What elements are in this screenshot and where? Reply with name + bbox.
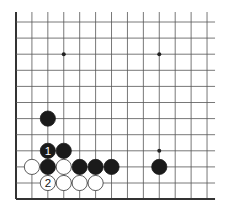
black-stone-icon: [40, 111, 55, 126]
black-stone-icon: [56, 143, 71, 158]
white-stone[interactable]: [56, 175, 71, 190]
white-stone-move-2[interactable]: 2: [40, 175, 55, 190]
black-stone-move-1[interactable]: 1: [40, 143, 55, 158]
white-stone-icon: [24, 159, 39, 174]
black-stone[interactable]: [152, 159, 167, 174]
star-point-icon: [157, 52, 161, 56]
black-stone[interactable]: [104, 159, 119, 174]
white-stone-icon: [88, 175, 103, 190]
white-stone-icon: [72, 175, 87, 190]
black-stone-icon: [152, 159, 167, 174]
black-stone[interactable]: [40, 111, 55, 126]
black-stone[interactable]: [88, 159, 103, 174]
black-stone-icon: [40, 159, 55, 174]
black-stone-icon: [88, 159, 103, 174]
white-stone[interactable]: [24, 159, 39, 174]
white-stone[interactable]: [88, 175, 103, 190]
white-stone-icon: [56, 159, 71, 174]
white-stone[interactable]: [56, 159, 71, 174]
go-board[interactable]: 12: [0, 0, 228, 214]
star-point-icon: [157, 149, 161, 153]
black-stone[interactable]: [56, 143, 71, 158]
black-stone-icon: [72, 159, 87, 174]
go-board-diagram: 12: [0, 0, 228, 214]
white-stone[interactable]: [72, 175, 87, 190]
black-stone-icon: [104, 159, 119, 174]
black-stone[interactable]: [72, 159, 87, 174]
star-point-icon: [62, 52, 66, 56]
move-number-label: 2: [45, 177, 51, 189]
black-stone[interactable]: [40, 159, 55, 174]
white-stone-icon: [56, 175, 71, 190]
move-number-label: 1: [45, 145, 51, 157]
